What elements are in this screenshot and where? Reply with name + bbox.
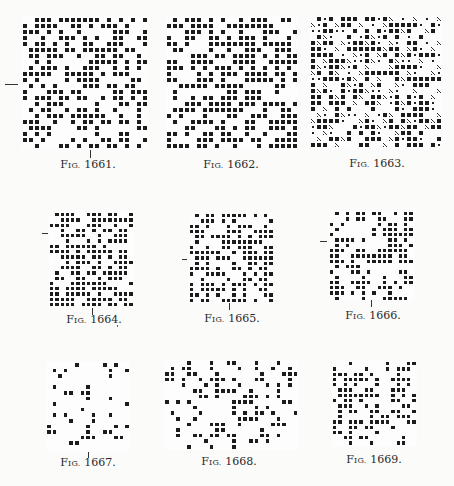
start-mark [371, 300, 372, 307]
caption-small: IG. [354, 456, 367, 465]
caption-number: 1668. [225, 455, 257, 468]
caption-number: 1663. [373, 157, 405, 170]
weave-grid [46, 362, 130, 452]
caption-prefix: F [345, 309, 353, 322]
caption-number: 1667. [84, 456, 116, 469]
print-speck [117, 325, 118, 327]
caption-small: IG. [74, 316, 87, 325]
grid-cell [293, 444, 299, 450]
grid-cell [128, 302, 133, 307]
grid-cell [436, 142, 442, 148]
caption-prefix: F [349, 157, 357, 170]
grid-cell [124, 446, 130, 452]
caption-prefix: F [204, 312, 212, 325]
grid-cell [268, 298, 273, 303]
caption-number: 1669. [370, 453, 402, 466]
start-mark [5, 84, 18, 85]
caption-small: IG. [353, 312, 366, 321]
figure-caption: FIG. 1669. [346, 453, 401, 466]
caption-small: IG. [68, 161, 81, 170]
caption-small: IG. [211, 161, 224, 170]
weave-grid [22, 17, 148, 149]
figure-caption: FIG. 1664. [66, 313, 121, 326]
weave-grid [49, 212, 134, 307]
caption-prefix: F [60, 456, 68, 469]
caption-prefix: F [66, 313, 74, 326]
caption-number: 1665. [228, 312, 260, 325]
caption-number: 1666. [369, 309, 401, 322]
figure-caption: FIG. 1666. [345, 309, 400, 322]
grid-cell [142, 143, 148, 149]
grid-cell [292, 143, 298, 149]
figure-caption: FIG. 1663. [349, 157, 404, 170]
caption-small: IG. [209, 458, 222, 467]
figure-caption: FIG. 1667. [60, 456, 115, 469]
weave-grid [310, 16, 442, 148]
grid-cell [408, 296, 413, 301]
caption-prefix: F [60, 158, 68, 171]
weave-grid [164, 360, 298, 450]
weave-grid [189, 213, 274, 303]
caption-small: IG. [68, 459, 81, 468]
start-mark [182, 259, 187, 260]
start-mark [42, 233, 48, 234]
caption-prefix: F [203, 158, 211, 171]
start-mark [320, 241, 327, 242]
weave-grid [166, 17, 298, 149]
caption-small: IG. [212, 315, 225, 324]
figure-caption: FIG. 1661. [60, 158, 115, 171]
grid-cell [411, 440, 416, 445]
start-mark [90, 150, 91, 158]
caption-number: 1662. [227, 158, 259, 171]
start-mark [229, 303, 230, 310]
weave-grid [332, 361, 417, 446]
figure-caption: FIG. 1668. [201, 455, 256, 468]
caption-small: IG. [357, 160, 370, 169]
figure-caption: FIG. 1665. [204, 312, 259, 325]
caption-number: 1661. [84, 158, 116, 171]
weave-grid [329, 211, 414, 301]
figure-caption: FIG. 1662. [203, 158, 258, 171]
caption-prefix: F [201, 455, 209, 468]
caption-prefix: F [346, 453, 354, 466]
